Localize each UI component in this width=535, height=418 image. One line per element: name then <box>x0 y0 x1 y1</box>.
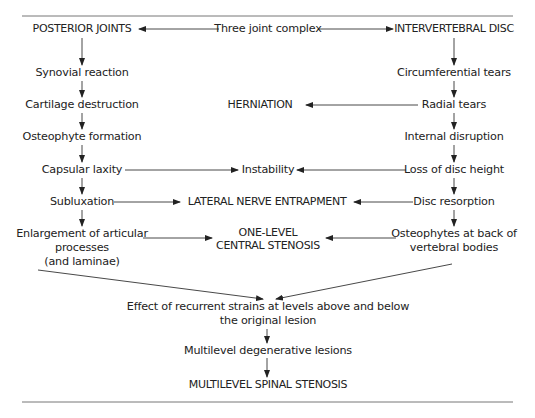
node-instability: Instability <box>242 163 295 177</box>
node-posterior-joints: POSTERIOR JOINTS <box>33 22 132 36</box>
node-disc-resorption: Disc resorption <box>413 195 494 209</box>
node-enlargement-processes: processes <box>55 241 109 255</box>
node-cartilage-destruction: Cartilage destruction <box>25 98 139 112</box>
node-three-joint-complex: Three joint complex <box>214 22 321 36</box>
node-vertebral-bodies: vertebral bodies <box>410 241 498 255</box>
node-internal-disruption: Internal disruption <box>404 130 503 144</box>
node-effect-recurrent-strains: Effect of recurrent strains at levels ab… <box>127 300 409 314</box>
node-central-stenosis: CENTRAL STENOSIS <box>216 239 320 253</box>
node-capsular-laxity: Capsular laxity <box>42 163 123 177</box>
node-multilevel-spinal-stenosis: MULTILEVEL SPINAL STENOSIS <box>189 378 347 392</box>
node-synovial-reaction: Synovial reaction <box>35 66 128 80</box>
node-loss-disc-height: Loss of disc height <box>404 163 504 177</box>
node-herniation: HERNIATION <box>228 98 293 112</box>
node-original-lesion: the original lesion <box>220 314 316 328</box>
node-osteophyte-formation: Osteophyte formation <box>23 130 142 144</box>
node-radial-tears: Radial tears <box>422 98 486 112</box>
node-multilevel-lesions: Multilevel degenerative lesions <box>184 344 352 358</box>
node-lateral-nerve-entrapment: LATERAL NERVE ENTRAPMENT <box>188 195 347 209</box>
node-intervertebral-disc: INTERVERTEBRAL DISC <box>394 22 514 36</box>
node-one-level: ONE-LEVEL <box>239 226 298 240</box>
node-enlargement-laminae: (and laminae) <box>44 255 120 269</box>
node-circumferential-tears: Circumferential tears <box>397 66 511 80</box>
arrow-left-to-effect <box>38 270 263 299</box>
node-subluxation: Subluxation <box>50 195 114 209</box>
node-enlargement-articular: Enlargement of articular <box>16 227 148 241</box>
arrow-right-to-effect <box>276 264 452 299</box>
node-osteophytes-back: Osteophytes at back of <box>391 227 517 241</box>
